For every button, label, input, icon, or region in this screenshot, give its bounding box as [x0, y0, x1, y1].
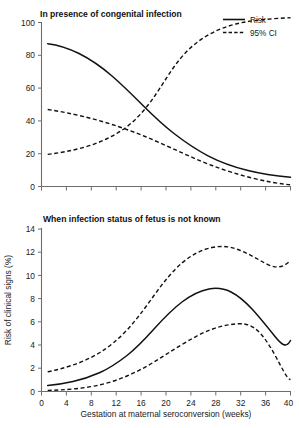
chart-bottom: When infection status of fetus is not kn… [26, 214, 294, 419]
chart-top-risk-curve [48, 44, 291, 178]
chart-bottom-x-tick-label: 28 [211, 398, 221, 408]
chart-top-x-ticks [42, 187, 291, 191]
chart-bottom-x-tick-label: 0 [39, 398, 44, 408]
chart-bottom-x-tick-label: 36 [261, 398, 271, 408]
chart-bottom-y-tick-label: 14 [26, 224, 36, 234]
chart-top-ci-upper-curve [48, 18, 291, 155]
chart-bottom-y-tick-label: 10 [26, 271, 36, 281]
chart-bottom-y-ticks: 14 12 10 8 6 4 2 0 [26, 224, 42, 396]
chart-top-y-tick-label: 80 [26, 50, 36, 60]
chart-top-y-tick-label: 0 [30, 182, 35, 192]
chart-bottom-x-tick-label: 20 [161, 398, 171, 408]
chart-bottom-x-tick-label: 12 [112, 398, 122, 408]
chart-bottom-title: When infection status of fetus is not kn… [43, 214, 221, 224]
chart-bottom-y-tick-label: 4 [30, 340, 35, 350]
legend-risk-label: Risk [250, 16, 267, 25]
chart-bottom-x-tick-label: 24 [186, 398, 196, 408]
chart-bottom-x-tick-label: 32 [236, 398, 246, 408]
chart-top-title: In presence of congenital infection [40, 9, 182, 19]
dual-line-chart: In presence of congenital infection 100 … [0, 0, 299, 428]
chart-bottom-x-tick-label: 40 [284, 398, 294, 408]
legend-ci-label: 95% CI [250, 29, 277, 38]
chart-top-y-tick-label: 100 [21, 18, 35, 28]
chart-bottom-y-tick-label: 8 [30, 294, 35, 304]
chart-bottom-y-tick-label: 6 [30, 317, 35, 327]
figure-caption-clipped [0, 420, 299, 428]
chart-top: In presence of congenital infection 100 … [21, 9, 291, 192]
chart-bottom-y-tick-label: 12 [26, 247, 36, 257]
x-axis-title: Gestation at maternal seroconversion (we… [81, 409, 252, 419]
chart-bottom-y-tick-label: 0 [30, 387, 35, 397]
chart-bottom-risk-curve [48, 288, 291, 385]
chart-bottom-x-ticks: 0 4 8 12 16 20 24 28 32 36 [39, 392, 293, 409]
chart-top-y-ticks: 100 80 60 40 20 0 [21, 18, 41, 192]
y-axis-title: Risk of clinical signs (%) [3, 255, 13, 345]
chart-bottom-x-tick-label: 8 [89, 398, 94, 408]
chart-bottom-x-tick-label: 4 [64, 398, 69, 408]
chart-top-y-tick-label: 60 [26, 83, 36, 93]
figure-container: In presence of congenital infection 100 … [0, 0, 299, 428]
chart-top-y-tick-label: 20 [26, 149, 36, 159]
chart-bottom-ci-lower-curve [48, 324, 291, 391]
chart-top-ci-lower-curve [48, 110, 291, 185]
chart-bottom-x-tick-label: 16 [136, 398, 146, 408]
chart-bottom-y-tick-label: 2 [30, 363, 35, 373]
chart-top-y-tick-label: 40 [26, 116, 36, 126]
